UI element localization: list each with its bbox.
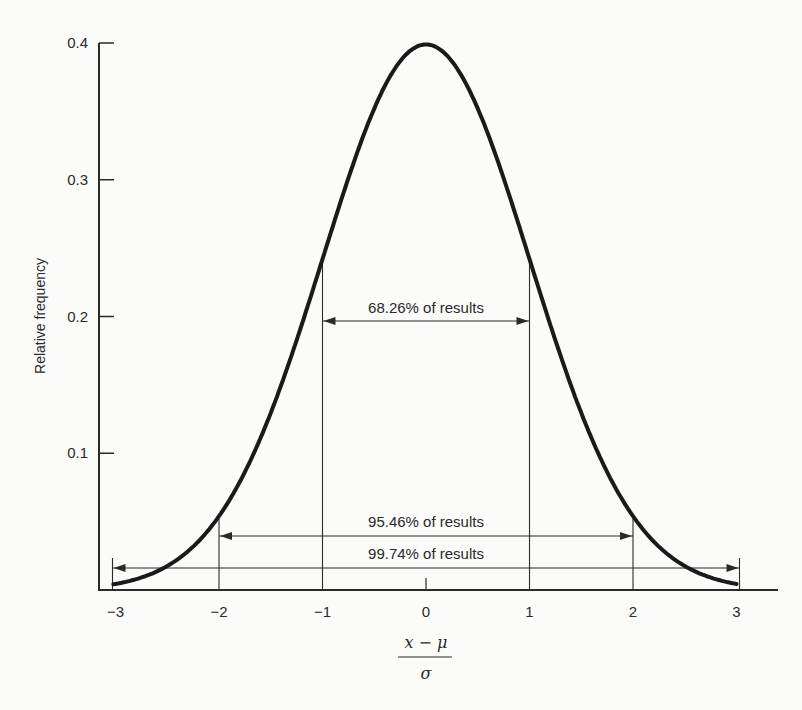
x-axis-label-numerator: x − μ: [405, 633, 448, 652]
x-tick-label: 3: [732, 603, 740, 620]
x-tick-label: −1: [314, 603, 331, 620]
arrow-left-icon: [324, 317, 336, 325]
percentage-annotations: 68.26% of results95.46% of results99.74%…: [113, 262, 740, 590]
axes: [98, 43, 778, 591]
x-tick-label: −3: [107, 603, 124, 620]
x-tick-label: 2: [629, 603, 637, 620]
arrow-right-icon: [620, 532, 632, 540]
arrow-right-icon: [727, 564, 739, 572]
x-axis-label-denominator: σ: [421, 664, 433, 683]
x-tick-label: 1: [525, 603, 533, 620]
x-axis-label: x − μ σ: [398, 633, 452, 683]
arrow-left-icon: [114, 564, 126, 572]
range-label: 99.74% of results: [368, 545, 484, 562]
range-label: 68.26% of results: [368, 299, 484, 316]
y-tick-label: 0.4: [67, 34, 88, 51]
y-tick-label: 0.2: [67, 308, 88, 325]
y-tick-label: 0.3: [67, 171, 88, 188]
arrow-right-icon: [517, 317, 529, 325]
arrow-left-icon: [220, 532, 232, 540]
x-tick-label: −2: [210, 603, 227, 620]
x-ticks: −3−2−10123: [107, 578, 741, 620]
x-tick-label: 0: [422, 603, 430, 620]
y-ticks: 0.10.20.30.4: [67, 34, 114, 461]
range-label: 95.46% of results: [368, 513, 484, 530]
y-tick-label: 0.1: [67, 444, 88, 461]
y-axis-label: Relative frequency: [32, 258, 48, 374]
normal-distribution-chart: 0.10.20.30.4 −3−2−10123 Relative frequen…: [0, 0, 802, 710]
